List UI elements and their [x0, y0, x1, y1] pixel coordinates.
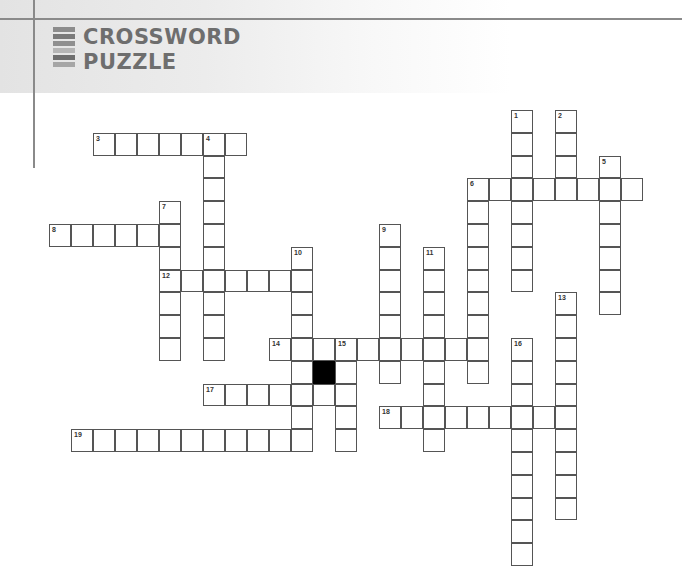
answer-cell[interactable] [511, 201, 533, 224]
answer-cell[interactable] [555, 156, 577, 179]
answer-cell[interactable] [467, 292, 489, 315]
answer-cell[interactable] [467, 247, 489, 270]
answer-cell[interactable] [467, 270, 489, 293]
answer-cell[interactable] [533, 406, 555, 429]
answer-cell[interactable] [511, 498, 533, 521]
answer-cell[interactable] [203, 224, 225, 247]
answer-cell[interactable] [335, 384, 357, 407]
answer-cell[interactable] [313, 384, 335, 407]
answer-cell[interactable] [599, 201, 621, 224]
answer-cell[interactable] [291, 315, 313, 338]
answer-cell[interactable] [159, 292, 181, 315]
answer-cell[interactable] [423, 429, 445, 452]
answer-cell[interactable] [203, 156, 225, 179]
answer-cell[interactable] [555, 361, 577, 384]
answer-cell[interactable] [137, 224, 159, 247]
answer-cell[interactable] [467, 338, 489, 361]
answer-cell[interactable] [203, 201, 225, 224]
answer-cell[interactable] [599, 178, 621, 201]
answer-cell[interactable] [511, 178, 533, 201]
answer-cell[interactable] [555, 315, 577, 338]
answer-cell[interactable] [159, 224, 181, 247]
answer-cell[interactable] [203, 429, 225, 452]
answer-cell[interactable] [203, 292, 225, 315]
answer-cell[interactable] [423, 292, 445, 315]
answer-cell[interactable] [423, 406, 445, 429]
answer-cell[interactable] [203, 247, 225, 270]
answer-cell[interactable] [203, 178, 225, 201]
answer-cell[interactable] [225, 384, 247, 407]
answer-cell[interactable] [291, 429, 313, 452]
answer-cell[interactable] [467, 224, 489, 247]
answer-cell[interactable] [115, 429, 137, 452]
answer-cell[interactable] [137, 133, 159, 156]
answer-cell[interactable] [379, 247, 401, 270]
answer-cell[interactable] [599, 270, 621, 293]
answer-cell[interactable] [467, 361, 489, 384]
answer-cell[interactable] [269, 270, 291, 293]
answer-cell[interactable] [467, 406, 489, 429]
answer-cell[interactable] [335, 429, 357, 452]
answer-cell[interactable] [599, 292, 621, 315]
answer-cell[interactable] [555, 406, 577, 429]
answer-cell[interactable] [401, 406, 423, 429]
answer-cell[interactable] [445, 338, 467, 361]
answer-cell[interactable] [291, 270, 313, 293]
answer-cell[interactable] [467, 315, 489, 338]
answer-cell[interactable] [599, 247, 621, 270]
answer-cell[interactable] [555, 452, 577, 475]
answer-cell[interactable] [291, 384, 313, 407]
answer-cell[interactable] [511, 270, 533, 293]
answer-cell[interactable] [511, 133, 533, 156]
answer-cell[interactable] [445, 406, 467, 429]
answer-cell[interactable] [577, 178, 599, 201]
answer-cell[interactable] [511, 475, 533, 498]
answer-cell[interactable] [555, 429, 577, 452]
answer-cell[interactable] [181, 270, 203, 293]
answer-cell[interactable] [379, 292, 401, 315]
answer-cell[interactable] [93, 224, 115, 247]
answer-cell[interactable] [423, 384, 445, 407]
answer-cell[interactable] [511, 224, 533, 247]
answer-cell[interactable] [181, 429, 203, 452]
answer-cell[interactable] [379, 315, 401, 338]
answer-cell[interactable] [225, 133, 247, 156]
answer-cell[interactable] [203, 338, 225, 361]
answer-cell[interactable] [423, 338, 445, 361]
answer-cell[interactable] [489, 178, 511, 201]
answer-cell[interactable] [379, 338, 401, 361]
answer-cell[interactable] [511, 156, 533, 179]
answer-cell[interactable] [291, 292, 313, 315]
answer-cell[interactable] [555, 133, 577, 156]
answer-cell[interactable] [291, 361, 313, 384]
answer-cell[interactable] [357, 338, 379, 361]
answer-cell[interactable] [533, 178, 555, 201]
answer-cell[interactable] [335, 361, 357, 384]
answer-cell[interactable] [115, 224, 137, 247]
answer-cell[interactable] [291, 406, 313, 429]
answer-cell[interactable] [423, 270, 445, 293]
answer-cell[interactable] [555, 475, 577, 498]
answer-cell[interactable] [269, 429, 291, 452]
answer-cell[interactable] [93, 429, 115, 452]
answer-cell[interactable] [159, 315, 181, 338]
answer-cell[interactable] [203, 315, 225, 338]
answer-cell[interactable] [159, 429, 181, 452]
answer-cell[interactable] [247, 384, 269, 407]
answer-cell[interactable] [313, 338, 335, 361]
answer-cell[interactable] [247, 270, 269, 293]
answer-cell[interactable] [159, 247, 181, 270]
answer-cell[interactable] [137, 429, 159, 452]
answer-cell[interactable] [225, 429, 247, 452]
answer-cell[interactable] [511, 429, 533, 452]
answer-cell[interactable] [335, 406, 357, 429]
answer-cell[interactable] [555, 338, 577, 361]
answer-cell[interactable] [621, 178, 643, 201]
answer-cell[interactable] [511, 361, 533, 384]
answer-cell[interactable] [203, 270, 225, 293]
answer-cell[interactable] [467, 201, 489, 224]
answer-cell[interactable] [511, 520, 533, 543]
answer-cell[interactable] [511, 543, 533, 566]
answer-cell[interactable] [181, 133, 203, 156]
answer-cell[interactable] [511, 452, 533, 475]
